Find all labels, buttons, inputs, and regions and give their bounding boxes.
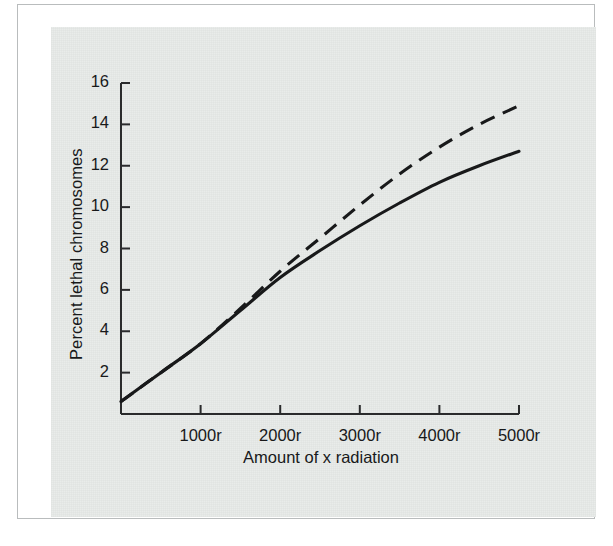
x-tick-label: 2000r <box>245 426 315 445</box>
y-tick-label: 14 <box>77 113 109 132</box>
x-axis-label: Amount of x radiation <box>121 448 521 467</box>
y-tick-label: 12 <box>77 155 109 174</box>
x-tick-label: 1000r <box>166 426 236 445</box>
y-tick-label: 6 <box>77 279 109 298</box>
y-tick-label: 16 <box>77 72 109 91</box>
y-tick-label: 10 <box>77 196 109 215</box>
y-tick-label: 4 <box>77 320 109 339</box>
x-axis-ticks <box>201 405 519 414</box>
x-tick-label: 3000r <box>325 426 395 445</box>
data-series-dashed <box>121 106 519 402</box>
y-tick-label: 8 <box>77 238 109 257</box>
x-tick-label: 5000r <box>484 426 554 445</box>
y-tick-label: 2 <box>77 362 109 381</box>
y-axis-ticks <box>121 83 130 373</box>
chart-plot-area: Percent lethal chromosomes Amount of x r… <box>0 0 613 546</box>
data-series-solid <box>121 151 519 401</box>
x-tick-label: 4000r <box>404 426 474 445</box>
